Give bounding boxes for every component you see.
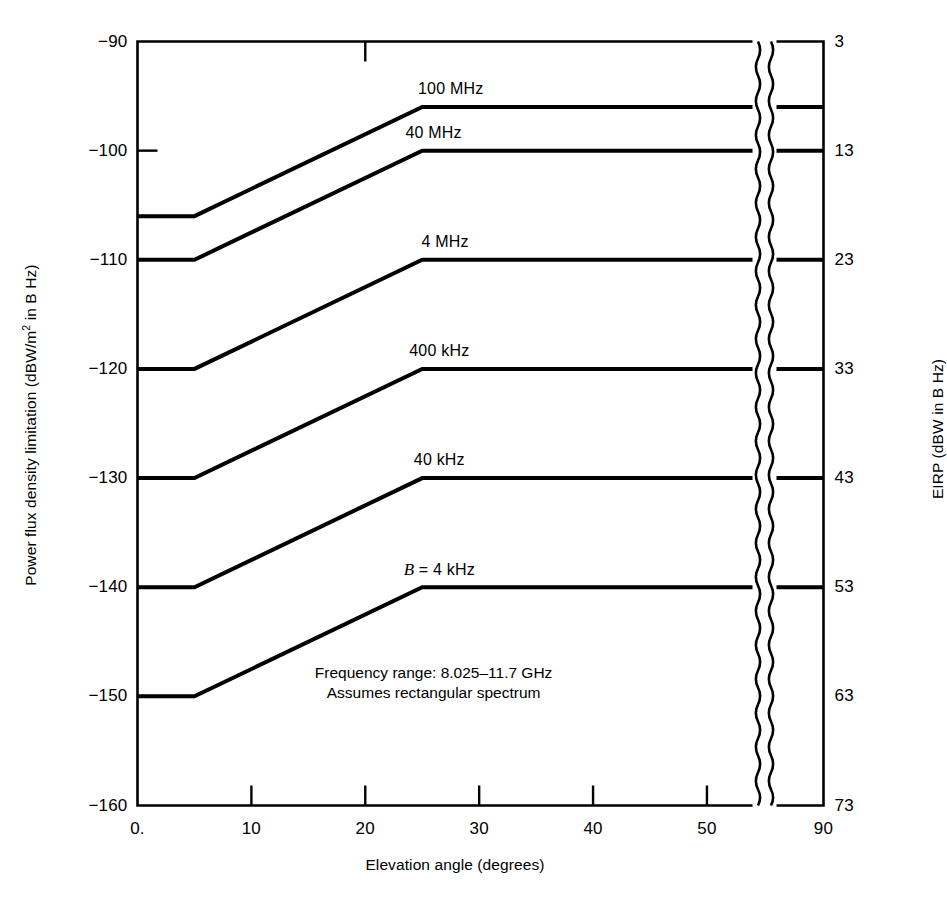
curve-label: 100 MHz [418,80,483,98]
x-axis-title: Elevation angle (degrees) [245,856,665,874]
y-tick-label-right: 23 [835,250,854,270]
y-tick-label-right: 63 [835,686,854,706]
y-axis-title-right: EIRP (dBW in B Hz) [929,194,947,664]
y-tick-label-right: 73 [835,796,854,816]
y-tick-label-left: −100 [46,141,128,161]
y-tick-label-right: 43 [835,468,854,488]
x-tick-label: 90 [789,819,859,839]
x-tick-label: 40 [558,819,628,839]
x-tick-label: 50 [672,819,742,839]
y-tick-label-left: −130 [46,468,128,488]
curve-label: 40 MHz [405,124,461,142]
x-tick-label: 20 [330,819,400,839]
x-tick-label: 0. [103,819,173,839]
curve-label: B = 4 kHz [404,560,475,580]
annotation-line-2: Assumes rectangular spectrum [315,683,553,704]
curve-label: 400 kHz [409,342,469,360]
axis-break-wavy-icon [756,40,773,807]
curve-label: 4 MHz [421,233,468,251]
y-tick-label-left: −110 [46,250,128,270]
curve-lines [138,107,824,696]
y-tick-label-right: 53 [835,577,854,597]
y-tick-label-left: −90 [46,32,128,52]
y-tick-label-left: −160 [46,796,128,816]
annotation-line-1: Frequency range: 8.025–11.7 GHz [315,663,553,684]
x-tick-label: 10 [216,819,286,839]
y-tick-label-left: −150 [46,686,128,706]
y-tick-label-right: 33 [835,359,854,379]
y-tick-label-left: −140 [46,577,128,597]
y-tick-label-right: 13 [835,141,854,161]
y-tick-label-right: 3 [835,32,845,52]
x-tick-label: 30 [444,819,514,839]
chart-annotation: Frequency range: 8.025–11.7 GHzAssumes r… [315,663,553,705]
y-axis-title-left: Power flux density limitation (dBW/m2 in… [20,190,40,660]
y-tick-label-left: −120 [46,359,128,379]
curve-label: 40 kHz [414,451,465,469]
